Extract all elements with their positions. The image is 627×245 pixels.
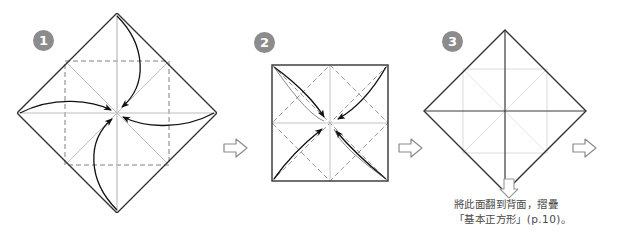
step-3-caption: 將此面翻到背面，摺疊 「基本正方形」(p.10)。	[454, 197, 571, 227]
flow-arrow-right-3	[571, 136, 599, 160]
step-3-group: 3	[425, 0, 585, 215]
flow-arrow-right-2	[397, 136, 425, 160]
step-number-badge-2: 2	[254, 32, 275, 53]
step-2-diagram	[266, 59, 394, 187]
step-2-group: 2	[245, 0, 400, 215]
step-3-center-creases	[424, 30, 586, 192]
step-3-diagram	[422, 28, 588, 194]
step-1-diagram	[17, 13, 217, 213]
step-1-group: 1	[0, 0, 230, 215]
caption-line-2: 「基本正方形」(p.10)。	[454, 212, 571, 227]
instruction-sheet: 1	[0, 0, 627, 245]
step-1-center-creases	[17, 13, 217, 213]
caption-line-1: 將此面翻到背面，摺疊	[454, 197, 571, 212]
